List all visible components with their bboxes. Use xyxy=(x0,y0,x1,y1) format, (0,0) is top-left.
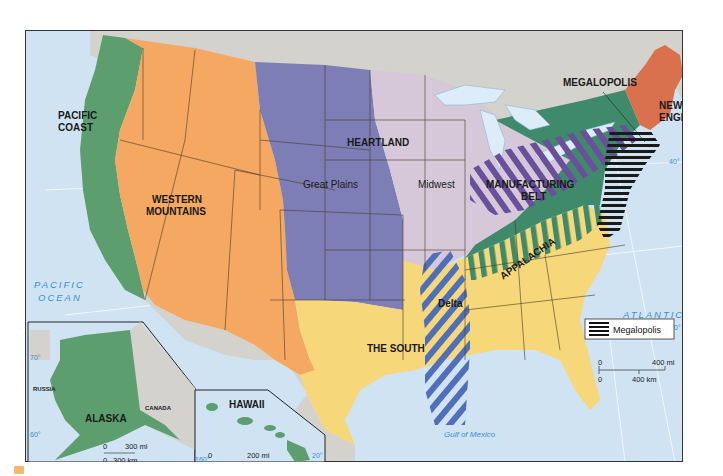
label-the-south: THE SOUTH xyxy=(367,343,425,354)
scale-km-zero: 0 xyxy=(598,375,602,384)
alaska-scale-mi-zero: 0 xyxy=(103,442,107,451)
label-western-mountains-1: WESTERN xyxy=(152,194,202,205)
label-midwest: Midwest xyxy=(418,179,455,190)
region-delta xyxy=(420,250,470,425)
us-regions-map: PACIFIC COAST WESTERN MOUNTAINS HEARTLAN… xyxy=(25,30,683,462)
label-atlantic-ocean-1: ATLANTIC xyxy=(622,309,683,320)
label-pacific-ocean-2: OCEAN xyxy=(38,292,82,303)
label-pacific-ocean-1: PACIFIC xyxy=(34,279,85,290)
scale-km-value: 400 km xyxy=(632,375,657,384)
label-heartland: HEARTLAND xyxy=(347,137,409,148)
label-manufacturing-belt-2: BELT xyxy=(521,191,546,202)
alaska-lat-60: 60° xyxy=(30,431,41,438)
alaska-scale-km-zero: 0 xyxy=(103,456,107,462)
label-megalopolis: MEGALOPOLIS xyxy=(563,77,637,88)
label-delta: Delta xyxy=(438,298,463,309)
label-canada: CANADA xyxy=(145,405,172,411)
label-great-plains: Great Plains xyxy=(303,179,358,190)
label-russia: RUSSIA xyxy=(33,386,56,392)
legend-megalopolis: Megalopolis xyxy=(585,319,674,339)
graticule-40: 40° xyxy=(669,158,680,165)
label-manufacturing-belt-1: MANUFACTURING xyxy=(486,179,575,190)
label-new-england-2: ENGLAND xyxy=(659,112,683,123)
label-new-england-1: NEW xyxy=(659,100,683,111)
label-alaska: ALASKA xyxy=(85,413,127,424)
alaska-scale-km-value: 300 km xyxy=(113,456,138,462)
scale-mi-zero: 0 xyxy=(598,358,602,367)
hawaii-scale-mi-zero: 0 xyxy=(208,451,212,460)
map-frame: PACIFIC COAST WESTERN MOUNTAINS HEARTLAN… xyxy=(25,30,683,462)
label-hawaii: HAWAII xyxy=(229,399,265,410)
hawaii-scale-mi-value: 200 mi xyxy=(247,451,270,460)
label-pacific-coast-1: PACIFIC xyxy=(58,110,97,121)
label-western-mountains-2: MOUNTAINS xyxy=(146,206,206,217)
alaska-lat-70: 70° xyxy=(30,354,41,361)
label-pacific-coast-2: COAST xyxy=(58,122,93,133)
legend-label: Megalopolis xyxy=(613,325,662,335)
alaska-scale-mi-value: 300 mi xyxy=(125,442,148,451)
corner-marker-icon xyxy=(14,466,24,474)
label-gulf-of-mexico: Gulf of Mexico xyxy=(444,430,496,439)
scale-mi-value: 400 mi xyxy=(652,358,675,367)
hawaii-lat-20: 20° xyxy=(312,452,323,459)
